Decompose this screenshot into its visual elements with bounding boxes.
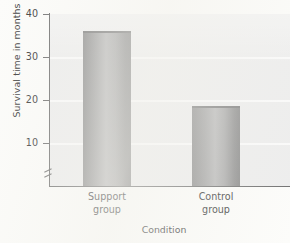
x-axis-title: Condition [0,224,290,235]
y-tick-label-40: 40 [0,8,38,19]
x-axis-line [49,186,290,187]
y-axis-title: Survival time in months [11,0,22,141]
x-tick-label-support-group-line1: Support [88,191,126,202]
x-tick-label-support-group: Support group [52,191,162,216]
y-tick-label-30: 30 [0,51,38,62]
x-tick-label-control-group: Control group [161,191,271,216]
x-tick-label-control-group-line1: Control [199,191,234,202]
y-tick-mark-10 [43,143,49,144]
y-axis-line [49,13,50,187]
x-tick-label-support-group-line2: group [52,204,162,217]
y-tick-label-10: 10 [0,137,38,148]
x-tick-label-control-group-line2: group [161,204,271,217]
bar-chart-figure: Survival time in months 40 30 20 10 Supp… [0,0,290,243]
y-tick-mark-40 [43,14,49,15]
y-tick-label-20: 20 [0,94,38,105]
y-tick-mark-20 [43,100,49,101]
y-tick-mark-30 [43,57,49,58]
bar-control-group [192,106,240,186]
axis-break-icon [44,168,52,180]
plot-area [50,14,290,186]
bar-support-group [83,31,131,186]
